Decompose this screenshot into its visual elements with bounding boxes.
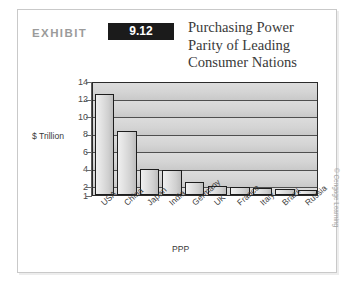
y-axis-tick-labels: 14121086421 xyxy=(72,78,88,196)
plot-area xyxy=(92,82,318,196)
x-axis-title: PPP xyxy=(172,244,189,254)
copyright-credit: © Cengage Learning xyxy=(333,168,340,227)
exhibit-title: Purchasing Power Parity of Leading Consu… xyxy=(188,19,338,72)
bars-layer xyxy=(93,83,317,195)
bar-chart: $ Trillion 14121086421 USAChinaJapanIndi… xyxy=(32,78,328,266)
exhibit-number: 9.12 xyxy=(108,23,174,40)
y-axis-title: $ Trillion xyxy=(32,131,64,141)
credit-wrap: © Cengage Learning xyxy=(340,168,350,258)
y-axis-tick-mark xyxy=(86,152,92,153)
exhibit-label: EXHIBIT xyxy=(32,27,87,39)
y-axis-tick-mark xyxy=(86,117,92,118)
y-axis-tick-mark xyxy=(86,196,92,197)
bar xyxy=(95,94,114,195)
bar xyxy=(117,131,136,195)
y-axis-tick-mark xyxy=(86,82,92,83)
y-axis-tick-mark xyxy=(86,187,92,188)
y-axis-tick-mark xyxy=(86,170,92,171)
exhibit-header: EXHIBIT 9.12 Purchasing Power Parity of … xyxy=(32,21,328,83)
x-axis-tick-labels: USAChinaJapanIndiaGermanyUKFranceItalyBr… xyxy=(92,198,318,244)
exhibit-number-badge: 9.12 xyxy=(108,23,174,40)
exhibit-card: EXHIBIT 9.12 Purchasing Power Parity of … xyxy=(17,9,337,273)
y-axis-tick-mark xyxy=(86,135,92,136)
y-axis-tick-mark xyxy=(86,100,92,101)
